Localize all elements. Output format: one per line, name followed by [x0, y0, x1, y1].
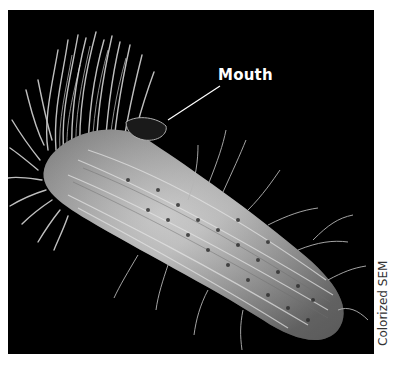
organism-illustration — [8, 10, 374, 354]
photo-credit: Colorized SEM — [376, 261, 390, 346]
sem-micrograph: Mouth — [8, 10, 374, 354]
mouth-label: Mouth — [218, 66, 273, 84]
mouth-pointer-line — [168, 86, 220, 120]
